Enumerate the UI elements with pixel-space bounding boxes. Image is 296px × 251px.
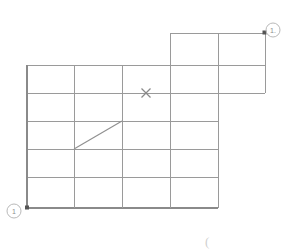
- node-dot-bottom-left: [25, 206, 29, 210]
- diagonal-line: [74, 121, 122, 149]
- callout-bottom-left[interactable]: 1: [7, 204, 29, 218]
- callout-label-top-right: 1.: [270, 27, 276, 34]
- callout-label-bottom-left: 1: [12, 208, 16, 215]
- main-grid-horizontal-lines: [27, 65, 265, 208]
- corner-paren-glyph: (: [205, 234, 209, 249]
- diagram-canvas: 1. 1 (: [0, 0, 296, 251]
- grid-drawing: 1. 1 (: [0, 0, 296, 251]
